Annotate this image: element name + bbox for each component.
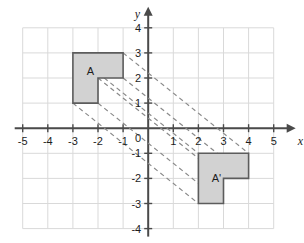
y-axis-tick-label: 1 xyxy=(135,97,141,109)
x-axis-tick-label: 2 xyxy=(195,135,201,147)
y-axis-name-label: y xyxy=(134,7,141,21)
labels-layer: -5-4-3-2-1123454321-1-2-3-40xyAA' xyxy=(18,7,304,235)
y-axis-tick-label: -2 xyxy=(131,172,141,184)
x-axis-name-label: x xyxy=(297,134,304,148)
shape-a-label: A xyxy=(87,65,95,77)
x-axis-tick-label: 4 xyxy=(246,135,252,147)
shape-a-prime-label: A' xyxy=(212,172,221,184)
x-axis-tick-label: -1 xyxy=(118,135,128,147)
origin-label: 0 xyxy=(135,132,141,144)
x-axis-tick-label: -5 xyxy=(18,135,28,147)
y-axis-tick-label: -1 xyxy=(131,147,141,159)
x-axis-tick-label: 5 xyxy=(271,135,277,147)
x-axis-arrowhead xyxy=(287,124,296,133)
y-axis-tick-label: 4 xyxy=(135,22,141,34)
y-axis-tick-label: -3 xyxy=(131,198,141,210)
shape-a-prime xyxy=(198,153,248,203)
plot-canvas: -5-4-3-2-1123454321-1-2-3-40xyAA' xyxy=(0,0,304,243)
x-axis-tick-label: -3 xyxy=(68,135,78,147)
y-axis-tick-label: 2 xyxy=(135,72,141,84)
x-axis-tick-label: -4 xyxy=(43,135,53,147)
y-axis-arrowhead xyxy=(144,7,153,16)
y-axis-tick-label: 3 xyxy=(135,47,141,59)
x-axis-tick-label: 1 xyxy=(170,135,176,147)
x-axis-tick-label: 3 xyxy=(220,135,226,147)
x-axis-tick-label: -2 xyxy=(93,135,103,147)
y-axis-tick-label: -4 xyxy=(131,223,141,235)
coordinate-plane-figure: -5-4-3-2-1123454321-1-2-3-40xyAA' xyxy=(0,0,304,243)
axes-layer xyxy=(15,7,296,237)
shape-a xyxy=(73,53,123,103)
